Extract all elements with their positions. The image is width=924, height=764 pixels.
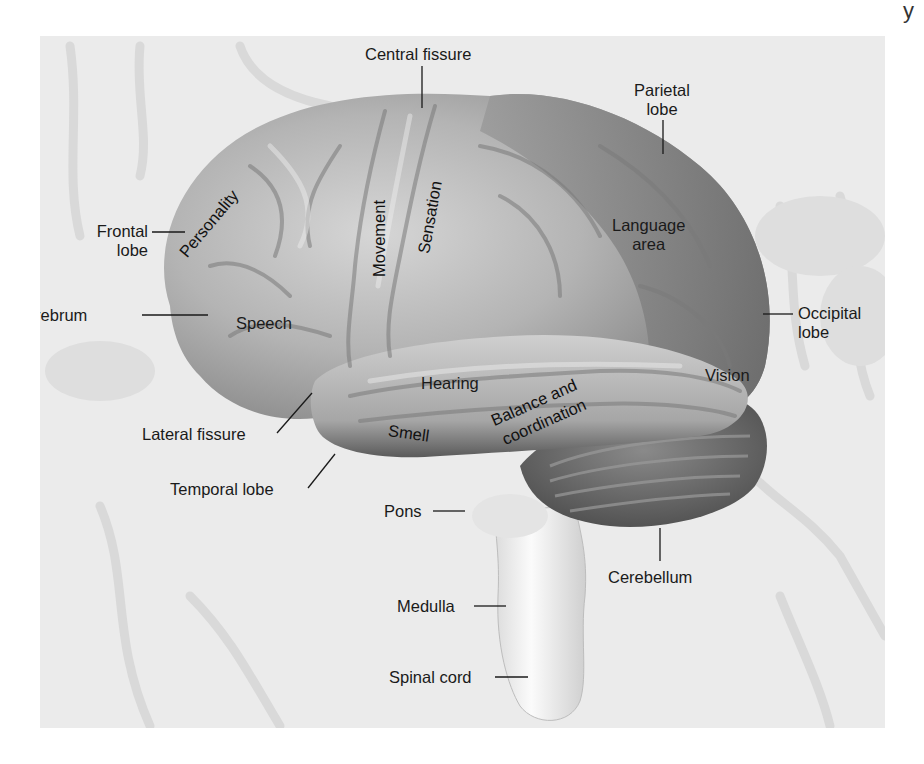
label-vision: Vision — [705, 366, 750, 385]
label-cerebellum: Cerebellum — [608, 568, 692, 587]
label-hearing: Hearing — [421, 374, 479, 393]
pons-shape — [472, 494, 548, 538]
label-speech: Speech — [236, 314, 292, 333]
label-medulla: Medulla — [397, 597, 455, 616]
label-parietal-lobe: Parietal lobe — [634, 81, 690, 119]
label-lateral-fissure: Lateral fissure — [142, 425, 246, 444]
label-pons: Pons — [384, 502, 422, 521]
label-cerebrum: Cerebrum — [40, 306, 87, 325]
brain-diagram-panel: Central fissure Parietal lobe Frontal lo… — [40, 36, 885, 728]
label-movement: Movement — [370, 200, 389, 277]
label-central-fissure: Central fissure — [365, 45, 471, 64]
label-spinal-cord: Spinal cord — [389, 668, 472, 687]
medulla-spinal-cord — [495, 506, 586, 720]
clipped-page-glyph: y — [903, 0, 914, 24]
label-frontal-lobe: Frontal lobe — [70, 222, 148, 260]
label-temporal-lobe: Temporal lobe — [170, 480, 274, 499]
label-language-area: Language area — [612, 216, 685, 254]
label-occipital-lobe: Occipital lobe — [798, 304, 861, 342]
